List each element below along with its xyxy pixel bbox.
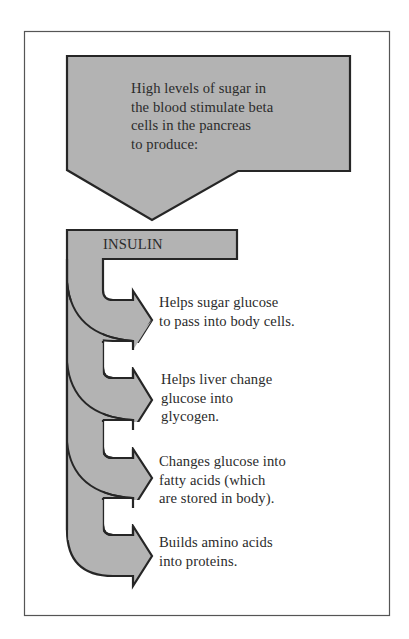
effect-line: into proteins. [159,552,273,571]
source-line: High levels of sugar in [131,79,273,98]
source-line: the blood stimulate beta [131,98,273,117]
diagram-canvas: High levels of sugar in the blood stimul… [0,0,409,639]
gap-3 [104,500,144,524]
source-line: to produce: [131,135,273,154]
gap-2 [104,422,144,447]
effect-2-text: Helps liver change glucose into glycogen… [161,370,272,426]
gap-1 [104,343,144,367]
effect-line: Helps sugar glucose [159,293,295,312]
insulin-label-text: INSULIN [103,235,163,254]
effect-line: Builds amino acids [159,533,273,552]
effect-line: to pass into body cells. [159,312,295,331]
effect-line: glucose into [161,389,272,408]
insulin-label: INSULIN [103,235,163,254]
effect-line: Changes glucose into [159,452,286,471]
effect-line: are stored in body). [159,489,286,508]
source-line: cells in the pancreas [131,116,273,135]
effect-4-text: Builds amino acids into proteins. [159,533,273,570]
effect-line: glycogen. [161,407,272,426]
spine-fill [68,300,103,540]
effect-3-text: Changes glucose into fatty acids (which … [159,452,286,508]
effect-line: fatty acids (which [159,471,286,490]
source-box-text: High levels of sugar in the blood stimul… [131,79,273,153]
effect-1-text: Helps sugar glucose to pass into body ce… [159,293,295,330]
effect-line: Helps liver change [161,370,272,389]
